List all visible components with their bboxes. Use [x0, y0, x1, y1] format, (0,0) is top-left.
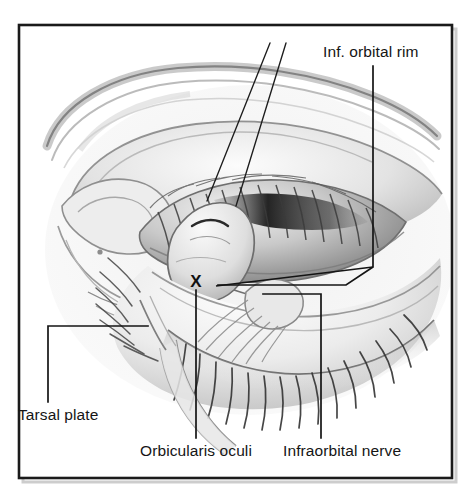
label-tarsal-plate: Tarsal plate [18, 407, 98, 423]
anatomical-figure: X Inf. orbital rim Tarsal plate Orbicula… [0, 0, 469, 500]
label-orbicularis-oculi: Orbicularis oculi [140, 443, 252, 459]
svg-text:X: X [190, 272, 202, 291]
label-infraorbital-nerve: Infraorbital nerve [283, 443, 401, 459]
label-inf-orbital-rim: Inf. orbital rim [323, 44, 419, 60]
illustration-canvas: X [0, 0, 469, 500]
x-marker: X [190, 272, 202, 291]
